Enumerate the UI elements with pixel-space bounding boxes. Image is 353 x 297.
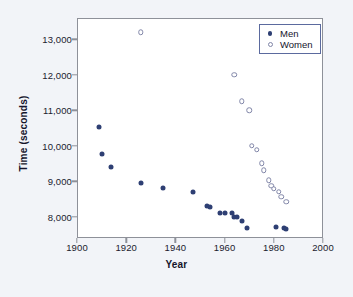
- data-point-women: [138, 29, 144, 35]
- data-point-men: [244, 225, 249, 230]
- y-axis-title: Time (seconds): [18, 64, 29, 204]
- legend-marker-women-icon: [265, 42, 275, 47]
- legend-label-men: Men: [280, 28, 298, 39]
- legend-marker-men-icon: [265, 31, 275, 36]
- legend-item-women: Women: [265, 39, 313, 50]
- legend-label-women: Women: [280, 39, 313, 50]
- x-tick-mark: [322, 238, 323, 243]
- data-point-women: [283, 199, 289, 205]
- data-point-men: [274, 225, 279, 230]
- x-axis-title: Year: [0, 259, 353, 270]
- data-point-men: [161, 185, 166, 190]
- x-tick-mark: [224, 238, 225, 243]
- x-tick-label: 1980: [263, 242, 285, 253]
- data-point-men: [99, 152, 104, 157]
- data-point-men: [207, 205, 212, 210]
- data-point-women: [239, 99, 245, 105]
- data-point-women: [261, 167, 267, 173]
- data-point-women: [259, 161, 265, 167]
- chart-legend: Men Women: [259, 24, 321, 54]
- data-point-men: [222, 210, 227, 215]
- legend-item-men: Men: [265, 28, 313, 39]
- x-tick-label: 1920: [115, 242, 137, 253]
- data-point-men: [284, 227, 289, 232]
- data-point-women: [254, 147, 260, 153]
- data-point-men: [239, 219, 244, 224]
- x-tick-mark: [76, 238, 77, 243]
- data-point-women: [266, 177, 272, 183]
- data-point-women: [278, 194, 284, 200]
- x-tick-mark: [273, 238, 274, 243]
- x-tick-mark: [125, 238, 126, 243]
- data-point-men: [97, 124, 102, 129]
- data-point-women: [232, 72, 238, 78]
- x-tick-mark: [175, 238, 176, 243]
- x-tick-label: 2000: [312, 242, 334, 253]
- x-tick-label: 1900: [66, 242, 88, 253]
- data-point-men: [190, 189, 195, 194]
- data-point-men: [138, 181, 143, 186]
- data-point-men: [109, 165, 114, 170]
- x-tick-label: 1940: [165, 242, 187, 253]
- x-tick-label: 1960: [214, 242, 236, 253]
- scatter-chart: 8,0009,00010,00011,00012,00013,000 19001…: [0, 0, 353, 297]
- data-point-women: [246, 108, 252, 114]
